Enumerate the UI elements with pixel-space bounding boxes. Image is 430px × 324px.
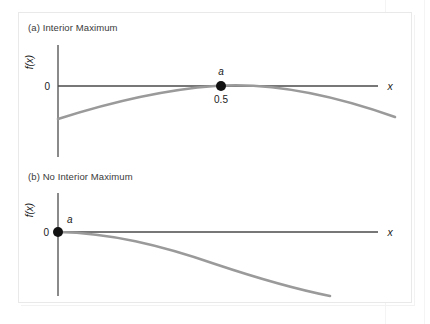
panel-b-plot: f(x) 0 a x xyxy=(0,160,430,324)
panel-b-x-axis-label: x xyxy=(386,226,393,238)
panel-a-x-axis-label: x xyxy=(386,80,393,92)
panel-b: (b) No Interior Maximum f(x) 0 a x xyxy=(0,160,430,324)
panel-b-point-label: a xyxy=(67,214,73,225)
panel-b-y-axis-label: f(x) xyxy=(24,203,35,217)
panel-a-plot: f(x) 0 a 0.5 x xyxy=(0,0,430,160)
panel-a-y-axis-label: f(x) xyxy=(24,55,35,69)
panel-a-zero-tick: 0 xyxy=(44,81,50,92)
panel-b-maximum-marker xyxy=(53,227,63,237)
panel-a-point-value: 0.5 xyxy=(214,94,228,105)
figure-root: (a) Interior Maximum f(x) 0 a 0.5 x (b) … xyxy=(0,0,430,324)
panel-a: (a) Interior Maximum f(x) 0 a 0.5 x xyxy=(0,0,430,160)
panel-b-curve xyxy=(58,232,330,296)
panel-a-maximum-marker xyxy=(216,81,226,91)
panel-a-point-label: a xyxy=(218,66,224,77)
panel-b-zero-tick: 0 xyxy=(43,227,49,238)
